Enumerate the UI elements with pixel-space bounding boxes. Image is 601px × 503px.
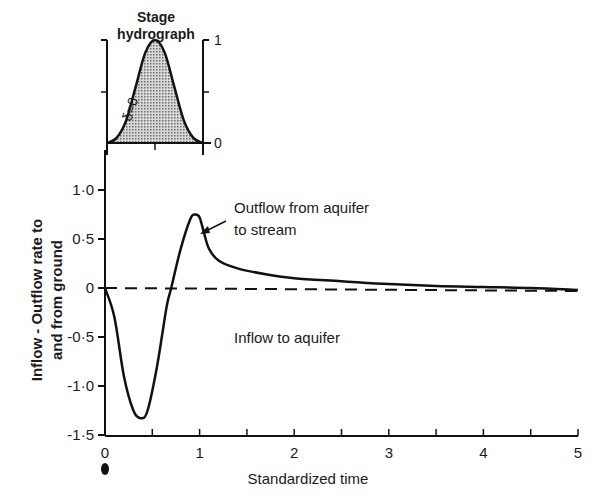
origin-marker-icon bbox=[101, 463, 109, 475]
inset-title-line-1: Stage bbox=[137, 9, 175, 25]
x-tick-label: 3 bbox=[385, 444, 393, 461]
x-tick-label: 1 bbox=[195, 444, 203, 461]
inset-stage-area bbox=[107, 40, 203, 143]
y-axis-label-line-2: and from ground bbox=[48, 240, 65, 360]
x-tick-label: 5 bbox=[574, 444, 582, 461]
annotation-inflow: Inflow to aquifer bbox=[234, 329, 340, 346]
main-plot: 1·00·50-0·5-1·0-1·5 012345 Outflow from … bbox=[28, 150, 582, 487]
y-tick-label: -0·5 bbox=[67, 328, 94, 345]
inset-stage-hydrograph: Stage hydrograph 1 0 δ=0 bbox=[101, 9, 222, 155]
y-tick-label: 1·0 bbox=[72, 181, 94, 198]
y-tick-label: -1·5 bbox=[67, 426, 94, 443]
y-tick-label: -1·0 bbox=[67, 377, 94, 394]
y-tick-label: 0 bbox=[86, 279, 94, 296]
inset-ytick-0: 0 bbox=[214, 135, 222, 151]
y-axis-label-line-1: Inflow - Outflow rate to bbox=[28, 219, 45, 381]
x-axis-label: Standardized time bbox=[248, 470, 369, 487]
chart-canvas: Stage hydrograph 1 0 δ=0 1·00·50-0·5-1·0… bbox=[0, 0, 601, 503]
x-tick-label: 0 bbox=[101, 444, 109, 461]
x-tick-label: 2 bbox=[290, 444, 298, 461]
y-tick-label: 0·5 bbox=[72, 230, 94, 247]
inset-ytick-1: 1 bbox=[214, 32, 222, 48]
annotation-outflow-line-2: to stream bbox=[234, 221, 297, 238]
rate-curve bbox=[105, 214, 578, 418]
x-tick-label: 4 bbox=[479, 444, 487, 461]
annotation-outflow-line-1: Outflow from aquifer bbox=[234, 199, 369, 216]
